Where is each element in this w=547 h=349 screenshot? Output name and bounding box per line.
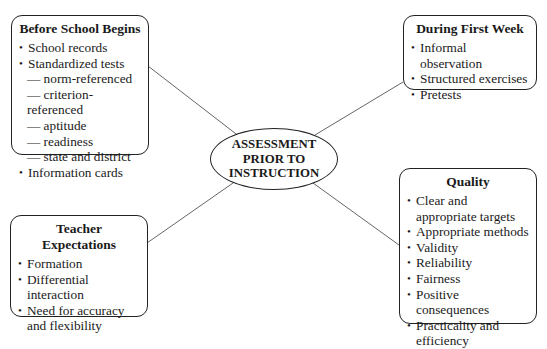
list-subitem: — aptitude — [19, 118, 141, 134]
list-item: Pretests — [411, 87, 529, 103]
list-item: Positive consequences — [407, 287, 529, 318]
box-title: Before School Begins — [19, 21, 141, 37]
box-title-line: Teacher — [18, 221, 140, 237]
central-topic-label: ASSESSMENT PRIOR TO INSTRUCTION — [229, 137, 319, 181]
list-item: Fairness — [407, 271, 529, 287]
connector-first-week — [315, 82, 403, 135]
connector-teacher-expectations — [147, 183, 233, 243]
list-subitem: — readiness — [19, 134, 141, 150]
list-item: Informal observation — [411, 40, 529, 71]
box-quality: Quality Clear and appropriate targets Ap… — [399, 168, 537, 324]
box-during-first-week: During First Week Informal observation S… — [403, 15, 537, 90]
list-item: Information cards — [19, 165, 141, 181]
item-list: School records Standardized tests — norm… — [19, 40, 141, 180]
box-teacher-expectations: Teacher Expectations Formation Different… — [10, 215, 148, 317]
item-list: Clear and appropriate targets Appropriat… — [407, 193, 529, 349]
box-title: Teacher Expectations — [18, 221, 140, 253]
list-item: Standardized tests — [19, 56, 141, 72]
list-item: School records — [19, 40, 141, 56]
list-subitem: — state and district — [19, 149, 141, 165]
central-topic-line: ASSESSMENT — [229, 137, 319, 152]
list-item: Appropriate methods — [407, 224, 529, 240]
central-topic-line: PRIOR TO — [229, 152, 319, 167]
central-topic-line: INSTRUCTION — [229, 166, 319, 181]
item-list: Formation Differential interaction Need … — [18, 256, 140, 334]
box-title: Quality — [407, 174, 529, 190]
box-title: During First Week — [411, 21, 529, 37]
box-title-line: Expectations — [18, 237, 140, 253]
box-before-school-begins: Before School Begins School records Stan… — [11, 15, 149, 155]
item-list: Informal observation Structured exercise… — [411, 40, 529, 102]
list-item: Differential interaction — [18, 272, 140, 303]
connector-before-school — [148, 66, 240, 137]
list-item: Formation — [18, 256, 140, 272]
central-topic-ellipse: ASSESSMENT PRIOR TO INSTRUCTION — [210, 128, 338, 190]
list-item: Practicality and efficiency — [407, 318, 529, 349]
list-item: Need for accuracy and flexibility — [18, 303, 140, 334]
list-subitem: — criterion-referenced — [19, 87, 141, 118]
list-subitem: — norm-referenced — [19, 71, 141, 87]
list-item: Reliability — [407, 255, 529, 271]
list-item: Structured exercises — [411, 71, 529, 87]
list-item: Validity — [407, 240, 529, 256]
connector-quality — [313, 183, 399, 245]
list-item: Clear and appropriate targets — [407, 193, 529, 224]
